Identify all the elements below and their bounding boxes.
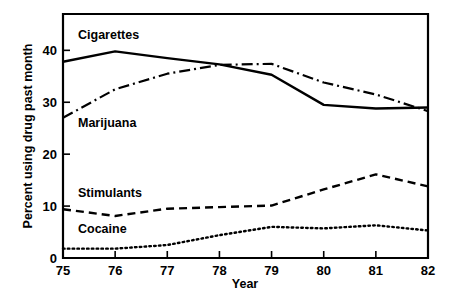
y-tick-label: 30 bbox=[43, 95, 57, 110]
x-tick-label: 82 bbox=[421, 263, 435, 278]
x-axis-title: Year bbox=[232, 277, 259, 291]
x-tick-label: 79 bbox=[264, 263, 278, 278]
x-tick-label: 81 bbox=[369, 263, 383, 278]
x-tick-label: 80 bbox=[316, 263, 330, 278]
chart-background bbox=[0, 0, 456, 298]
series-label-cocaine: Cocaine bbox=[78, 222, 127, 236]
series-label-stimulants: Stimulants bbox=[78, 186, 142, 200]
x-tick-label: 78 bbox=[212, 263, 226, 278]
line-chart-svg: 010203040 7576777879808182 CigarettesMar… bbox=[0, 0, 456, 298]
y-tick-label: 20 bbox=[43, 147, 57, 162]
chart-figure: 010203040 7576777879808182 CigarettesMar… bbox=[0, 0, 456, 298]
y-axis-title: Percent using drug past month bbox=[21, 44, 35, 229]
x-tick-label: 77 bbox=[160, 263, 174, 278]
x-tick-label: 76 bbox=[108, 263, 122, 278]
y-tick-label: 40 bbox=[43, 43, 57, 58]
x-tick-label: 75 bbox=[56, 263, 70, 278]
y-tick-label: 10 bbox=[43, 199, 57, 214]
series-label-marijuana: Marijuana bbox=[78, 116, 137, 130]
series-label-cigarettes: Cigarettes bbox=[78, 28, 139, 42]
